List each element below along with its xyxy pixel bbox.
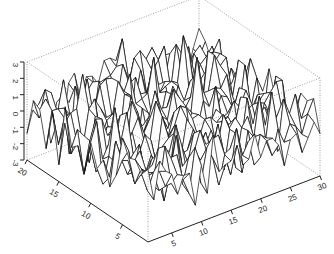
y-tick-label: 10 bbox=[80, 209, 93, 222]
surface-mesh bbox=[27, 29, 320, 206]
x-tick bbox=[261, 199, 263, 203]
z-tick-label: -2 bbox=[11, 143, 20, 151]
x-tick bbox=[320, 176, 322, 180]
z-tick-label: 0 bbox=[11, 112, 20, 117]
z-tick-label: -1 bbox=[11, 127, 20, 135]
x-tick-label: 15 bbox=[227, 215, 239, 227]
z-tick-label: -3 bbox=[11, 159, 20, 167]
y-tick bbox=[57, 182, 59, 186]
z-tick-label: 1 bbox=[11, 95, 20, 100]
y-tick-label: 5 bbox=[114, 232, 123, 242]
x-tick bbox=[201, 222, 203, 226]
perspective-surface-plot: 510152025305101520-3-2-10123 bbox=[0, 0, 334, 254]
y-tick bbox=[89, 203, 91, 207]
x-tick bbox=[290, 187, 292, 191]
y-tick-label: 15 bbox=[48, 187, 61, 200]
x-tick-label: 10 bbox=[198, 226, 210, 238]
z-tick-label: 3 bbox=[11, 63, 20, 68]
y-tick-label: 20 bbox=[16, 166, 29, 179]
x-tick bbox=[172, 233, 174, 237]
z-tick-label: 2 bbox=[11, 79, 20, 84]
x-tick-label: 20 bbox=[257, 203, 269, 215]
x-tick-label: 25 bbox=[287, 192, 299, 204]
x-tick-label: 5 bbox=[170, 238, 178, 248]
x-tick-label: 30 bbox=[316, 181, 328, 193]
y-tick bbox=[25, 160, 27, 164]
y-tick bbox=[121, 225, 123, 229]
x-tick bbox=[231, 210, 233, 214]
